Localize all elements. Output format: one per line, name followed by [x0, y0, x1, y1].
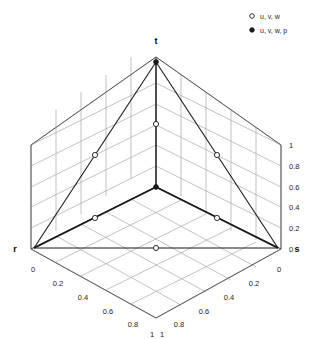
- s-tick: 0.2: [249, 279, 259, 288]
- t-tick: 0.8: [289, 162, 299, 171]
- r-tick: 0.6: [103, 307, 113, 316]
- t-tick: 1: [289, 141, 293, 150]
- s-tick: 0.8: [174, 320, 184, 329]
- legend-label-uvw: u, v, w: [260, 13, 281, 20]
- legend-marker-open-circle-icon: [250, 14, 255, 19]
- s-tick: 1: [160, 330, 164, 339]
- t-tick: 0.4: [289, 203, 299, 212]
- t-tick: 0.6: [289, 183, 299, 192]
- t-axis-tick-labels: 0 0.2 0.4 0.6 0.8 1: [289, 141, 299, 254]
- data-point-open: [92, 215, 97, 220]
- grid-floor: [31, 187, 281, 318]
- legend-label-uvwp: u, v, w, p: [260, 27, 287, 35]
- data-point-filled: [154, 185, 159, 190]
- t-tick: 0.2: [289, 224, 299, 233]
- legend: u, v, w u, v, w, p: [250, 13, 288, 35]
- plot-svg: r s t 0 0.2 0.4 0.6 0.8 1 0 0.2 0.4 0.6 …: [0, 0, 312, 339]
- data-point-open: [214, 215, 219, 220]
- legend-marker-filled-circle-icon: [250, 28, 255, 33]
- figure-3d-simplex-plot: r s t 0 0.2 0.4 0.6 0.8 1 0 0.2 0.4 0.6 …: [0, 0, 312, 339]
- data-point-open: [153, 121, 158, 126]
- s-tick: 0.4: [224, 293, 234, 302]
- r-tick: 0.8: [128, 320, 138, 329]
- data-point-filled: [154, 60, 159, 65]
- s-tick: 0.6: [199, 307, 209, 316]
- r-tick: 0.4: [78, 293, 88, 302]
- axis-label-r: r: [13, 244, 17, 254]
- r-tick: 1: [150, 330, 154, 339]
- data-point-open: [153, 245, 158, 250]
- axis-label-t: t: [155, 36, 158, 46]
- data-point-open: [92, 152, 97, 157]
- s-axis-tick-labels: 0 0.2 0.4 0.6 0.8 1: [160, 265, 281, 339]
- data-point-open: [214, 152, 219, 157]
- axis-label-s: s: [294, 244, 299, 254]
- s-tick: 0: [277, 265, 281, 274]
- r-tick: 0.2: [53, 279, 63, 288]
- r-tick: 0: [31, 265, 35, 274]
- t-tick: 0: [289, 245, 293, 254]
- simplex-edges: [34, 62, 278, 248]
